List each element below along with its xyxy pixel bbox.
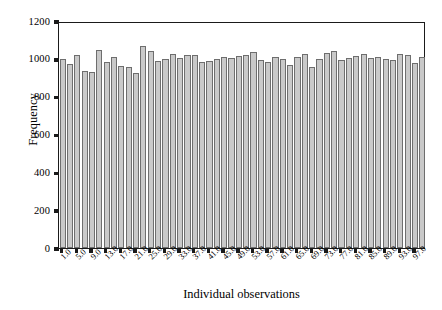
bar xyxy=(148,51,154,248)
bar xyxy=(405,55,411,248)
bar xyxy=(89,72,95,248)
bar xyxy=(265,62,271,248)
bar xyxy=(206,61,212,248)
bar xyxy=(243,55,249,248)
y-tick-label: 1200 xyxy=(29,17,50,28)
bar xyxy=(302,54,308,248)
bar xyxy=(258,60,264,248)
bar xyxy=(250,52,256,248)
bar xyxy=(368,58,374,248)
bar xyxy=(390,60,396,248)
bar xyxy=(155,61,161,248)
bar xyxy=(331,51,337,248)
y-tick-label: 600 xyxy=(34,130,50,141)
y-axis-label: Frequency xyxy=(26,60,41,180)
bar xyxy=(346,58,352,248)
bar xyxy=(353,56,359,248)
bar xyxy=(140,46,146,248)
bar xyxy=(419,57,425,248)
bar xyxy=(74,55,80,248)
bar xyxy=(375,57,381,248)
bar xyxy=(338,60,344,248)
bar xyxy=(170,54,176,248)
bar xyxy=(118,66,124,248)
bar xyxy=(383,59,389,248)
bar xyxy=(236,56,242,248)
bar xyxy=(294,57,300,248)
bar xyxy=(82,71,88,248)
y-tick-label: 200 xyxy=(34,206,50,217)
y-tick-label: 400 xyxy=(34,168,50,179)
bar xyxy=(111,57,117,248)
bar xyxy=(361,54,367,248)
bar xyxy=(280,59,286,248)
bar xyxy=(221,57,227,248)
bar xyxy=(60,59,66,248)
bar xyxy=(184,55,190,248)
bar xyxy=(133,73,139,248)
histogram-figure: Frequency 020040060080010001200 1.05.09.… xyxy=(0,0,442,310)
y-tick-label: 800 xyxy=(34,92,50,103)
bar xyxy=(104,62,110,248)
bar xyxy=(287,65,293,248)
bar xyxy=(412,63,418,248)
bar xyxy=(199,62,205,248)
bar xyxy=(126,67,132,248)
bar xyxy=(228,58,234,248)
plot-area xyxy=(58,22,425,249)
bar xyxy=(192,55,198,248)
bar xyxy=(272,57,278,248)
bar xyxy=(67,64,73,248)
bar xyxy=(177,58,183,248)
bar xyxy=(214,59,220,248)
x-axis-label: Individual observations xyxy=(58,287,425,302)
bar xyxy=(324,53,330,248)
y-tick-label: 1000 xyxy=(29,54,50,65)
bar-series xyxy=(59,23,424,248)
bar xyxy=(316,59,322,248)
bar xyxy=(162,59,168,248)
bar xyxy=(96,50,102,248)
bar xyxy=(397,54,403,248)
bar xyxy=(309,67,315,248)
y-tick-label: 0 xyxy=(45,244,50,255)
x-tick-label: 1.0 xyxy=(59,247,73,261)
